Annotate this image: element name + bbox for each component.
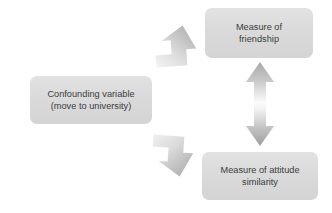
node-measure-of-attitude-similarity-label: Measure of attitude similarity — [207, 164, 313, 189]
arrow-up-right-icon — [150, 24, 202, 68]
node-measure-of-friendship-label: Measure of friendship — [210, 21, 308, 46]
node-measure-of-attitude-similarity-line1: Measure of attitude — [220, 165, 299, 175]
arrow-double-vertical-icon — [243, 60, 277, 148]
node-measure-of-attitude-similarity-line2: similarity — [242, 177, 278, 187]
node-confounding-variable: Confounding variable (move to university… — [30, 76, 152, 124]
node-measure-of-friendship: Measure of friendship — [205, 8, 313, 58]
node-measure-of-friendship-line2: friendship — [239, 34, 279, 44]
node-confounding-variable-line1: Confounding variable — [47, 89, 134, 99]
arrow-down-right-icon — [148, 134, 200, 178]
node-confounding-variable-line2: (move to university) — [51, 101, 132, 111]
node-measure-of-attitude-similarity: Measure of attitude similarity — [202, 152, 318, 200]
confounding-variable-diagram: Confounding variable (move to university… — [0, 0, 332, 213]
node-measure-of-friendship-line1: Measure of — [236, 22, 282, 32]
node-confounding-variable-label: Confounding variable (move to university… — [35, 88, 147, 113]
